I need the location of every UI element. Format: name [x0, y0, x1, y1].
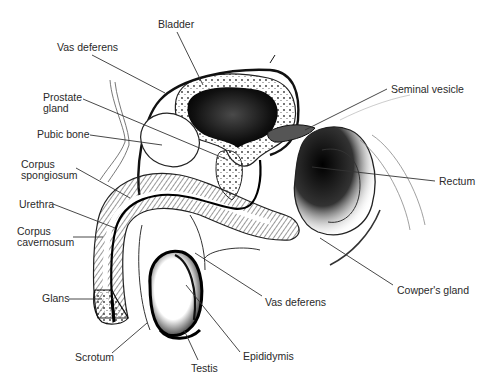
leader-prostate-gland — [83, 99, 228, 160]
label-seminal-vesicle: Seminal vesicle — [391, 84, 464, 95]
label-urethra: Urethra — [19, 199, 54, 210]
leader-pubic-bone — [90, 135, 162, 145]
leader-vas-deferens-top — [92, 55, 165, 93]
label-cowpers-gland: Cowper's gland — [397, 285, 469, 296]
leader-testis — [184, 330, 198, 360]
leader-bladder — [177, 32, 203, 85]
label-testis: Testis — [191, 363, 218, 374]
label-corpus-cavernosum: Corpus cavernosum — [17, 226, 74, 248]
label-epididymis: Epididymis — [243, 351, 294, 362]
label-rectum: Rectum — [439, 176, 475, 187]
label-vas-deferens-bottom: Vas deferens — [265, 297, 326, 308]
leader-scrotum — [112, 323, 147, 353]
leader-seminal-vesicle — [305, 89, 387, 130]
leader-epididymis — [186, 285, 240, 352]
anatomy-diagram: Bladder Vas deferens Prostate gland Pubi… — [0, 0, 486, 391]
label-bladder: Bladder — [158, 19, 194, 30]
leader-urethra — [53, 204, 115, 228]
label-prostate-gland: Prostate gland — [43, 92, 82, 114]
label-corpus-spongiosum: Corpus spongiosum — [21, 159, 78, 181]
label-pubic-bone: Pubic bone — [37, 129, 90, 140]
leader-cowpers-gland — [320, 238, 393, 285]
label-scrotum: Scrotum — [75, 352, 114, 363]
leader-vas-deferens-bottom — [195, 253, 262, 296]
leader-rectum — [312, 167, 435, 181]
leader-corpus-spongiosum — [76, 168, 130, 198]
label-vas-deferens-top: Vas deferens — [57, 42, 118, 53]
leader-lines — [0, 0, 486, 391]
label-glans: Glans — [42, 293, 69, 304]
